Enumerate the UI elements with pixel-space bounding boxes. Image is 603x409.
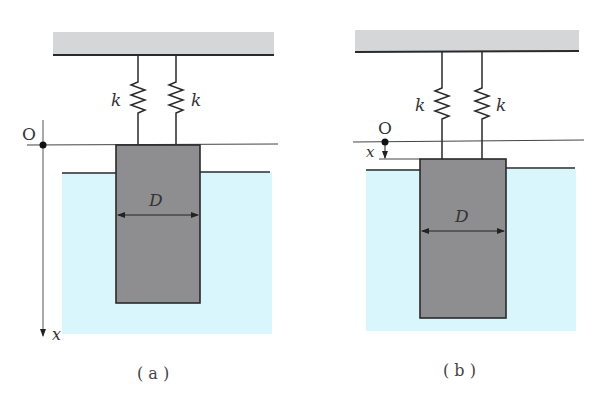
spring-right-a [169,55,183,145]
caption-b: ( b ) [443,361,476,380]
spring-right-b [475,52,489,159]
spring-right-label-b: k [496,95,506,115]
spring-left-b [435,52,449,159]
width-label-a: D [148,190,163,210]
origin-dot-a [40,142,47,149]
spring-right-label-a: k [191,90,201,110]
displacement-label-b: x [366,143,375,161]
figure-b: k k O D x ( b ) [353,30,584,380]
spring-left-label-b: k [415,95,425,115]
origin-label-b: O [378,118,392,138]
origin-label-a: O [22,124,36,144]
width-label-b: D [454,206,469,226]
spring-left-label-a: k [111,90,121,110]
caption-a: ( a ) [137,364,169,383]
spring-left-a [131,55,145,145]
block-a [116,145,200,303]
figure-a: k k O D x ( a ) [22,32,278,383]
ceiling-b [355,30,579,51]
spring-float-diagram: k k O D x ( a ) k k O D x ( b ) [0,0,603,409]
origin-dot-b [382,139,389,146]
block-b [420,159,506,318]
axis-label-a: x [52,325,61,344]
ceiling-a [53,32,274,54]
